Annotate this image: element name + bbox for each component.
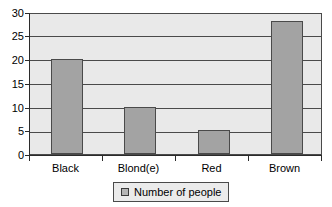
x-axis-tick [248, 156, 249, 161]
bars-layer [30, 14, 321, 154]
legend[interactable]: Number of people [113, 182, 229, 202]
bar-blonde[interactable] [124, 107, 156, 154]
y-axis-tick-label: 20 [2, 55, 24, 66]
y-axis-tick-label: 15 [2, 79, 24, 90]
legend-swatch-icon [121, 188, 129, 196]
y-axis-line [29, 13, 30, 155]
x-axis-tick [102, 156, 103, 161]
bar-black[interactable] [51, 59, 83, 154]
bar-brown[interactable] [271, 21, 303, 154]
plot-area [29, 13, 322, 155]
y-axis-tick-label: 25 [2, 31, 24, 42]
y-axis-tick-label: 30 [2, 8, 24, 19]
bar-chart: 30 25 20 15 10 5 0 Black Blond(e) Red B [0, 0, 332, 207]
y-axis-tick-label: 10 [2, 103, 24, 114]
y-axis-tick-label: 5 [2, 126, 24, 137]
x-axis-tick [29, 156, 30, 161]
x-axis-tick [175, 156, 176, 161]
x-axis-label-blonde: Blond(e) [102, 162, 175, 175]
x-axis-label-black: Black [29, 162, 102, 175]
x-axis-label-brown: Brown [248, 162, 321, 175]
y-axis-tick-label: 0 [2, 150, 24, 161]
x-axis-label-red: Red [175, 162, 248, 175]
y-axis-labels: 30 25 20 15 10 5 0 [0, 0, 24, 207]
bar-red[interactable] [198, 130, 230, 154]
x-axis-tick [321, 156, 322, 161]
legend-label: Number of people [134, 186, 221, 198]
